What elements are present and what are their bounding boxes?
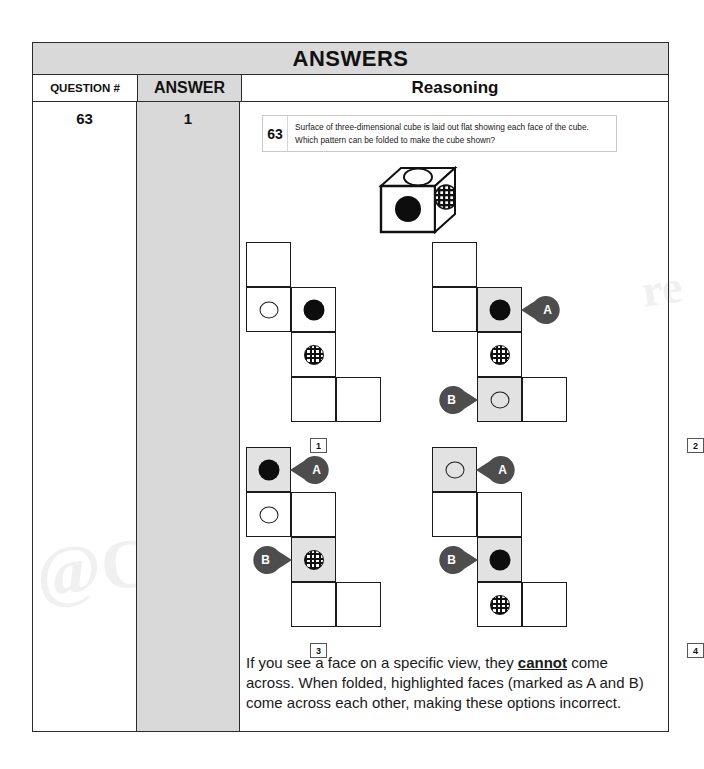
table-header-row: QUESTION # ANSWER Reasoning xyxy=(33,75,668,102)
answer-sheet: ANSWERS QUESTION # ANSWER Reasoning 63 1… xyxy=(32,42,669,732)
callout-marker-b: B xyxy=(436,546,480,574)
hatched-circle-icon xyxy=(490,345,510,365)
option-number-badge: 4 xyxy=(687,643,704,658)
reasoning-cell: 63 Surface of three-dimensional cube is … xyxy=(240,102,668,731)
question-prompt-box: 63 Surface of three-dimensional cube is … xyxy=(262,115,617,152)
net-cell xyxy=(432,447,477,492)
net-cell xyxy=(432,287,477,332)
callout-marker-a: A xyxy=(288,456,332,484)
net-cell xyxy=(246,492,291,537)
callout-letter: B xyxy=(250,546,281,574)
net-cell xyxy=(291,287,336,332)
explanation-text: If you see a face on a specific view, th… xyxy=(246,653,660,713)
net-cell xyxy=(477,537,522,582)
net-cell xyxy=(477,377,522,422)
net-cell xyxy=(477,492,522,537)
filled-circle-icon xyxy=(258,459,279,480)
net-cell xyxy=(291,537,336,582)
question-column-header: QUESTION # xyxy=(33,75,138,101)
net-grid: AB2 xyxy=(432,242,567,422)
callout-letter: A xyxy=(532,296,563,324)
callout-letter: B xyxy=(436,386,467,414)
callout-letter: A xyxy=(301,456,332,484)
net-grid: AB3 xyxy=(246,447,381,627)
net-cell xyxy=(336,377,381,422)
option-net-1[interactable]: 1 xyxy=(246,242,381,422)
answer-column-header: ANSWER xyxy=(138,75,242,101)
net-cell xyxy=(432,492,477,537)
cube-front-face-mark xyxy=(395,196,421,222)
reasoning-column-header: Reasoning xyxy=(242,75,668,101)
net-grid: AB4 xyxy=(432,447,567,627)
answer-value-cell: 1 xyxy=(137,102,240,731)
open-circle-icon xyxy=(259,506,278,523)
filled-circle-icon xyxy=(489,299,510,320)
hatched-circle-icon xyxy=(490,595,510,615)
callout-marker-b: B xyxy=(250,546,294,574)
option-nets-container: 1AB2AB3AB4 xyxy=(240,242,668,647)
net-cell xyxy=(291,377,336,422)
cube-right-face-mark xyxy=(435,185,457,209)
net-cell xyxy=(246,447,291,492)
prompt-number: 63 xyxy=(263,116,288,151)
option-number-badge: 2 xyxy=(687,438,704,453)
hatched-circle-icon xyxy=(304,345,324,365)
callout-marker-b: B xyxy=(436,386,480,414)
question-number-cell: 63 xyxy=(33,102,137,731)
net-cell xyxy=(477,582,522,627)
filled-circle-icon xyxy=(489,549,510,570)
open-circle-icon xyxy=(445,461,464,478)
option-net-3[interactable]: AB3 xyxy=(246,447,381,627)
option-net-4[interactable]: AB4 xyxy=(432,447,567,627)
net-cell xyxy=(291,332,336,377)
cube-illustration xyxy=(373,164,469,242)
callout-letter: B xyxy=(436,546,467,574)
net-cell xyxy=(522,582,567,627)
net-cell xyxy=(336,582,381,627)
callout-marker-a: A xyxy=(474,456,518,484)
explanation-part-1: If you see a face on a specific view, th… xyxy=(246,654,518,671)
filled-circle-icon xyxy=(303,299,324,320)
net-cell xyxy=(432,242,477,287)
hatched-circle-icon xyxy=(304,550,324,570)
callout-letter: A xyxy=(487,456,518,484)
net-cell xyxy=(477,332,522,377)
net-cell xyxy=(477,287,522,332)
net-grid: 1 xyxy=(246,242,381,422)
net-cell xyxy=(291,582,336,627)
explanation-emphasis: cannot xyxy=(518,654,567,671)
table-row: 63 1 63 Surface of three-dimensional cub… xyxy=(33,102,668,731)
net-cell xyxy=(291,492,336,537)
open-circle-icon xyxy=(259,301,278,318)
answers-banner: ANSWERS xyxy=(33,43,668,75)
net-cell xyxy=(246,287,291,332)
open-circle-icon xyxy=(490,391,509,408)
prompt-text: Surface of three-dimensional cube is lai… xyxy=(288,121,616,145)
option-net-2[interactable]: AB2 xyxy=(432,242,567,422)
callout-marker-a: A xyxy=(519,296,563,324)
net-cell xyxy=(246,242,291,287)
net-cell xyxy=(522,377,567,422)
